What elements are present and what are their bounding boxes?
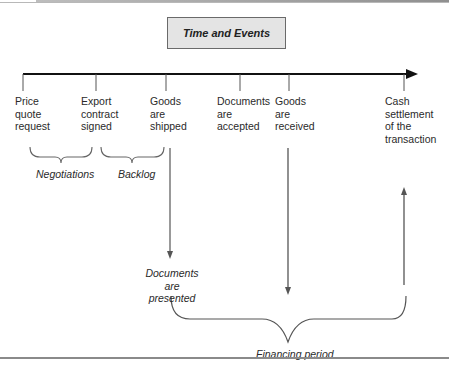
shipped-to-presented-arrow xyxy=(167,148,173,259)
event-label-export-contract-signed: Export contract signed xyxy=(81,95,118,133)
timeline-arrow xyxy=(23,69,418,79)
cash-settlement-up-arrow xyxy=(401,187,407,285)
event-label-documents-accepted: Documents are accepted xyxy=(217,95,270,133)
diagram-canvas xyxy=(0,0,449,374)
period-label-backlog: Backlog xyxy=(118,168,155,181)
negotiations-brace xyxy=(30,147,92,163)
timeline-ticks xyxy=(23,74,404,91)
backlog-brace xyxy=(101,147,164,163)
event-label-goods-received: Goods are received xyxy=(275,95,315,133)
event-label-cash-settlement: Cash settlement of the transaction xyxy=(385,95,436,145)
bottom-rule xyxy=(0,357,449,359)
period-label-negotiations: Negotiations xyxy=(36,168,94,181)
intermediate-event-documents-presented: Documents are presented xyxy=(137,267,207,305)
event-label-goods-shipped: Goods are shipped xyxy=(150,95,187,133)
received-down-arrow xyxy=(285,148,291,295)
event-label-price-quote-request: Price quote request xyxy=(15,95,50,133)
